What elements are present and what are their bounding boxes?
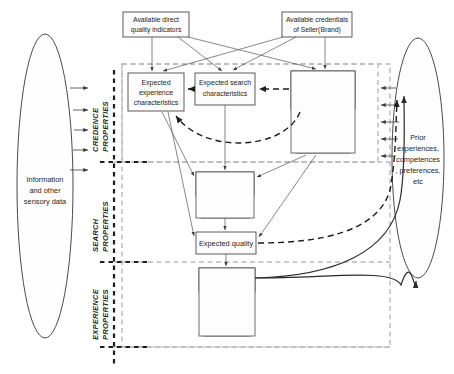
expected-search-characteristics-line2: characteristics: [203, 90, 248, 97]
expected-experience-characteristics-line2: experience: [139, 89, 173, 97]
expected-experience-characteristics-line3: characteristics: [134, 99, 179, 106]
band-labels: CREDENCE PROPERTIES SEARCH PROPERTIES EX…: [91, 101, 110, 340]
right-ellipse-label-line5: etc: [413, 177, 423, 186]
band-label-search-line2: PROPERTIES: [101, 201, 110, 252]
node-experienced-search[interactable]: Experienced Search Searchable Factors: [196, 172, 254, 218]
diagram-svg: CREDENCE PROPERTIES SEARCH PROPERTIES EX…: [0, 0, 454, 374]
expected-search-characteristics-line1: Expected search: [199, 79, 251, 87]
expected-quality-label: Expected quality: [199, 239, 254, 248]
node-available-direct-quality-indicators[interactable]: Available direct quality indicators: [123, 12, 189, 37]
available-credentials-of-seller-line2: of Seller(Brand): [293, 26, 341, 34]
left-ellipse-label-line2: and other: [29, 186, 61, 195]
node-expected-search-characteristics[interactable]: Expected search characteristics: [195, 73, 255, 105]
band-label-search-line1: SEARCH: [91, 218, 100, 252]
feedback-experience-quality-to-prior: [255, 272, 416, 285]
right-ellipse-label-line4: , preferences,: [395, 166, 440, 175]
right-ellipse-label-line2: experiences,: [397, 144, 439, 153]
right-input-ellipse: Prior experiences, competences , prefere…: [392, 38, 444, 278]
node-available-credentials-of-seller[interactable]: Available credentials of Seller(Brand): [282, 12, 352, 37]
band-label-experience-line2: PROPERTIES: [101, 289, 110, 340]
band-label-credence-line2: PROPERTIES: [101, 101, 110, 152]
node-experience-quality[interactable]: Experience quality Design Factors Enjoym…: [199, 268, 255, 336]
available-credentials-of-seller-line1: Available credentials: [286, 16, 349, 23]
expected-search-characteristics-box[interactable]: [195, 73, 255, 105]
node-expected-credence-characteristics[interactable]: Expected credence characteristics Accept…: [291, 71, 355, 153]
left-ellipse-label-line3: sensory data: [24, 197, 67, 206]
band-label-experience-line1: EXPERIENCE: [91, 288, 100, 340]
available-direct-quality-indicators-line2: quality indicators: [131, 26, 182, 34]
left-input-ellipse: Information and other sensory data: [17, 34, 73, 338]
node-expected-quality[interactable]: Expected quality: [196, 232, 256, 254]
experienced-search-group-outline: [196, 172, 254, 218]
expected-experience-characteristics-line1: Expected: [141, 79, 170, 87]
right-ellipse-label-line1: Prior: [410, 133, 426, 142]
top-source-connectors: [152, 37, 325, 71]
left-ellipse-label-line1: Information: [27, 175, 64, 184]
node-expected-experience-characteristics[interactable]: Expected experience characteristics: [128, 73, 184, 111]
experience-quality-group-outline: [199, 268, 255, 336]
diagram-canvas: CREDENCE PROPERTIES SEARCH PROPERTIES EX…: [0, 0, 454, 374]
available-direct-quality-indicators-line1: Available direct: [133, 16, 179, 23]
credence-group-outline: [291, 71, 355, 153]
band-label-credence-line1: CREDENCE: [91, 107, 100, 152]
right-ellipse-label-line3: competences: [396, 155, 440, 164]
